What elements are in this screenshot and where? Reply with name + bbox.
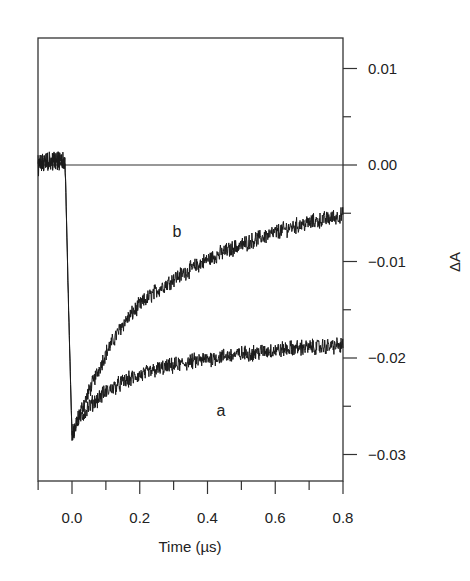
- x-tick-label: 0.2: [129, 509, 150, 526]
- x-axis-ticks: 0.00.20.40.60.8: [38, 481, 353, 526]
- series-b-line: [38, 152, 343, 437]
- series-label-a: a: [217, 402, 226, 419]
- y-tick-label: −0.02: [368, 349, 406, 366]
- y-tick-label: −0.03: [368, 446, 406, 463]
- y-axis-title: ΔA: [446, 252, 463, 272]
- x-axis-title: Time (µs): [158, 538, 221, 555]
- y-tick-label: 0.01: [368, 60, 397, 77]
- y-tick-label: −0.01: [368, 253, 406, 270]
- y-axis-ticks: 0.010.00−0.01−0.02−0.03: [343, 60, 406, 463]
- x-tick-label: 0.8: [333, 509, 354, 526]
- x-tick-label: 0.6: [265, 509, 286, 526]
- y-tick-label: 0.00: [368, 156, 397, 173]
- series-a-line: [38, 152, 343, 441]
- transient-absorption-chart: 0.00.20.40.60.8 0.010.00−0.01−0.02−0.03 …: [0, 0, 470, 581]
- x-tick-label: 0.4: [197, 509, 218, 526]
- data-series: [38, 152, 343, 441]
- x-tick-label: 0.0: [62, 509, 83, 526]
- series-label-b: b: [173, 223, 182, 240]
